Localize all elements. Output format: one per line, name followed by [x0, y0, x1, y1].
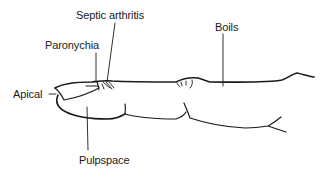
label-boils: Boils — [215, 22, 238, 33]
label-apical: Apical — [13, 89, 42, 100]
finger-infection-diagram — [0, 0, 328, 177]
leader-septic-arthritis — [107, 23, 115, 82]
label-pulpspace: Pulpspace — [79, 155, 129, 166]
leader-pulpspace — [87, 107, 88, 150]
finger-pulp-outline — [57, 95, 125, 119]
pip-ventral-crease — [184, 103, 286, 132]
label-septic-arthritis: Septic arthritis — [76, 10, 144, 21]
dip-ventral-crease — [125, 104, 186, 119]
label-paronychia: Paronychia — [45, 40, 99, 51]
dip-creases — [102, 82, 114, 89]
